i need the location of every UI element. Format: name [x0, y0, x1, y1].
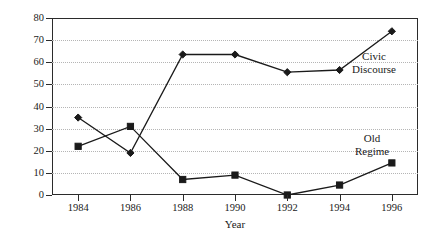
series-label-civic-line2: Discourse: [352, 63, 396, 76]
x-axis-tick: [392, 195, 393, 201]
x-axis-tick: [78, 195, 79, 201]
series-label-old-regime: Old Regime: [355, 132, 389, 158]
data-point-diamond: [231, 51, 238, 58]
x-axis-tick: [183, 195, 184, 201]
data-point-square: [180, 176, 186, 182]
data-point-square: [389, 160, 395, 166]
data-point-square: [127, 123, 133, 129]
series-line-old-regime: [78, 126, 392, 195]
data-point-diamond: [284, 69, 291, 76]
x-axis-tick-label: 1984: [48, 202, 108, 213]
x-axis-tick-label: 1992: [257, 202, 317, 213]
series-label-civic-discourse: Civic Discourse: [352, 50, 396, 76]
x-axis-tick: [130, 195, 131, 201]
x-axis-tick-label: 1996: [362, 202, 422, 213]
data-point-diamond: [127, 149, 134, 156]
x-axis-tick: [235, 195, 236, 201]
series-label-civic-line1: Civic: [352, 50, 396, 63]
data-point-diamond: [179, 51, 186, 58]
x-axis-tick-label: 1986: [100, 202, 160, 213]
data-point-square: [336, 182, 342, 188]
data-point-square: [232, 172, 238, 178]
data-point-square: [75, 143, 81, 149]
x-axis-tick-label: 1994: [310, 202, 370, 213]
data-point-diamond: [75, 114, 82, 121]
series-line-civic-discourse: [78, 31, 392, 153]
line-chart: Percentage of Coverage 01020304050607080…: [0, 0, 434, 245]
x-axis-tick-label: 1988: [153, 202, 213, 213]
x-axis-title: Year: [52, 218, 418, 230]
x-axis-tick: [287, 195, 288, 201]
series-label-old-line1: Old: [355, 132, 389, 145]
x-axis-tick: [340, 195, 341, 201]
x-axis-tick-label: 1990: [205, 202, 265, 213]
series-label-old-line2: Regime: [355, 145, 389, 158]
